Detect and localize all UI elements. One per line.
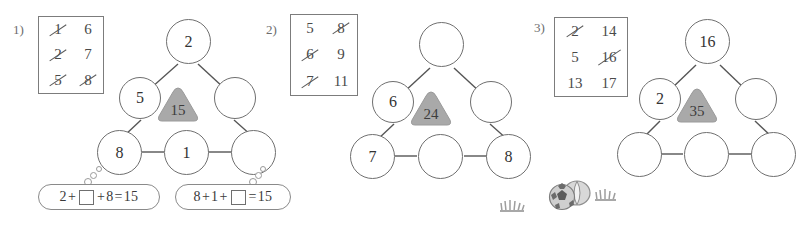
number-chip[interactable]: 5 bbox=[304, 20, 316, 37]
number-chip[interactable]: 13 bbox=[566, 75, 585, 92]
triangle-puzzle: 2 5 8 1 15 bbox=[100, 12, 262, 172]
panel-index-label: 2) bbox=[266, 22, 277, 38]
triangle-node-bottom-left[interactable]: 8 bbox=[97, 130, 142, 175]
triangle-sum-badge: 15 bbox=[155, 84, 201, 124]
triangle-node-bottom-mid[interactable] bbox=[684, 132, 729, 177]
puzzle-panel-1: 1) 1 2 5 6 7 8 2 5 bbox=[0, 0, 262, 229]
eq-operator: = bbox=[115, 189, 123, 205]
sports-balls-icon bbox=[548, 178, 592, 212]
triangle-node-top[interactable]: 2 bbox=[166, 19, 211, 64]
bubble-dot-small bbox=[96, 166, 102, 172]
number-chip[interactable]: 7 bbox=[82, 46, 94, 63]
number-bank-box: 5 6 7 8 9 11 bbox=[290, 14, 358, 96]
number-chip[interactable]: 2 bbox=[569, 23, 581, 40]
number-chip[interactable]: 17 bbox=[600, 75, 619, 92]
number-chip[interactable]: 6 bbox=[304, 46, 316, 63]
number-bank-box: 1 2 5 6 7 8 bbox=[38, 16, 104, 94]
equation-bubble-left[interactable]: 2 + + 8 = 15 bbox=[38, 184, 160, 210]
triangle-node-bottom-left[interactable] bbox=[617, 132, 662, 177]
grass-tuft-left-icon bbox=[498, 196, 528, 212]
number-chip[interactable]: 9 bbox=[335, 46, 347, 63]
number-chip[interactable]: 16 bbox=[600, 49, 619, 66]
triangle-node-right-mid[interactable] bbox=[735, 78, 777, 120]
eq-term: 8 bbox=[194, 189, 201, 205]
answer-blank-box[interactable] bbox=[231, 190, 246, 205]
number-chip[interactable]: 8 bbox=[82, 72, 94, 89]
equation-expression: 2 + + 8 = 15 bbox=[60, 189, 139, 205]
number-chip[interactable]: 5 bbox=[52, 72, 64, 89]
number-chip[interactable]: 1 bbox=[52, 21, 64, 38]
triangle-node-top[interactable] bbox=[419, 22, 464, 67]
equation-expression: 8 + 1 + = 15 bbox=[194, 189, 273, 205]
answer-blank-box[interactable] bbox=[79, 190, 94, 205]
eq-operator: + bbox=[219, 189, 227, 205]
number-chip[interactable]: 5 bbox=[569, 49, 581, 66]
panel-index-label: 3) bbox=[534, 20, 545, 36]
eq-term: 8 bbox=[106, 189, 113, 205]
triangle-puzzle: 16 2 35 bbox=[620, 12, 786, 172]
number-chip[interactable]: 6 bbox=[82, 21, 94, 38]
triangle-sum-value: 35 bbox=[690, 103, 705, 125]
triangle-node-top[interactable]: 16 bbox=[685, 19, 730, 64]
triangle-puzzle: 6 7 8 24 bbox=[354, 14, 524, 174]
triangle-node-bottom-mid[interactable]: 1 bbox=[164, 130, 209, 175]
number-bank-box: 2 5 13 14 16 17 bbox=[554, 17, 628, 97]
bubble-dot-medium bbox=[255, 172, 262, 179]
eq-operator: + bbox=[97, 189, 105, 205]
triangle-sum-badge: 24 bbox=[408, 88, 454, 128]
puzzle-panel-2: 2) 5 6 7 8 9 11 6 bbox=[262, 0, 524, 229]
number-chip[interactable]: 7 bbox=[304, 73, 316, 90]
eq-operator: + bbox=[202, 189, 210, 205]
number-chip[interactable]: 11 bbox=[332, 73, 350, 90]
number-chip[interactable]: 2 bbox=[52, 46, 64, 63]
triangle-sum-value: 24 bbox=[424, 106, 439, 128]
grass-tuft-right-icon bbox=[593, 186, 619, 201]
panel-index-label: 1) bbox=[13, 22, 24, 38]
eq-term: 1 bbox=[211, 189, 218, 205]
eq-term: 2 bbox=[60, 189, 67, 205]
number-chip[interactable]: 14 bbox=[600, 23, 619, 40]
triangle-node-bottom-right[interactable] bbox=[751, 132, 796, 177]
eq-operator: + bbox=[68, 189, 76, 205]
triangle-node-bottom-mid[interactable] bbox=[418, 134, 463, 179]
triangle-sum-value: 15 bbox=[171, 102, 186, 124]
eq-operator: = bbox=[249, 189, 257, 205]
triangle-node-bottom-left[interactable]: 7 bbox=[350, 134, 395, 179]
bubble-dot-medium bbox=[90, 172, 97, 179]
number-chip[interactable]: 8 bbox=[335, 20, 347, 37]
triangle-node-right-mid[interactable] bbox=[214, 77, 256, 119]
triangle-sum-badge: 35 bbox=[674, 85, 720, 125]
triangle-node-right-mid[interactable] bbox=[470, 81, 512, 123]
eq-result: 15 bbox=[124, 189, 139, 205]
